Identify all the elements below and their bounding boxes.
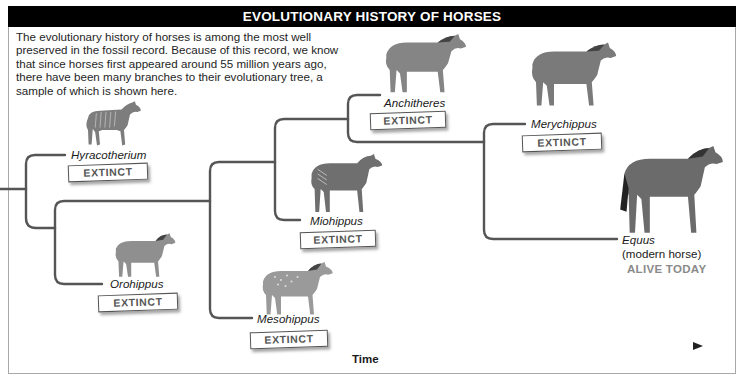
horse-icon [258,262,334,316]
horse-icon [380,34,468,94]
branch-to-node3 [210,162,275,201]
species-name-merychippus: Merychippus [531,117,597,130]
horse-icon [527,42,617,108]
branch-merychippus [484,124,525,142]
species-name-hyracotherium: Hyracotherium [71,148,146,161]
status-badge-merychippus: EXTINCT [522,133,603,153]
status-alive-equus: ALIVE TODAY [627,263,706,275]
horse-icon [82,100,142,148]
horse-icon [618,146,724,236]
branch-miohippus [275,162,300,220]
branch-mesohippus [210,201,252,318]
species-name-equus: Equus [622,233,655,246]
species-name-orohippus: Orohippus [110,277,164,290]
status-badge-orohippus: EXTINCT [98,293,179,313]
status-badge-mesohippus: EXTINCT [250,330,329,350]
status-badge-hyracotherium: EXTINCT [68,163,149,183]
branch-hyracotherium [26,155,65,189]
species-name-miohippus: Miohippus [310,214,363,227]
branch-equus [484,142,617,239]
species-subtitle-equus: (modern horse) [622,247,701,260]
species-name-anchitheres: Anchitheres [384,96,445,109]
horse-icon [307,152,383,214]
time-axis-arrowhead [693,342,703,350]
status-badge-anchitheres: EXTINCT [370,111,447,131]
time-axis-label: Time [352,353,379,365]
status-badge-miohippus: EXTINCT [300,230,377,250]
horse-icon [112,232,176,278]
branch-to-node2 [55,201,210,228]
branch-lower [26,189,55,228]
branch-orohippus [55,228,102,284]
species-name-mesohippus: Mesohippus [257,312,320,325]
